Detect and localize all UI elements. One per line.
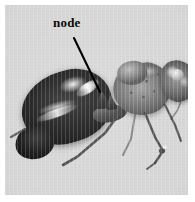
figure-root: node [0,0,195,202]
node-leader-line [0,0,195,202]
node-annotation-label: node [53,16,81,30]
annotation-layer: node [0,0,195,202]
